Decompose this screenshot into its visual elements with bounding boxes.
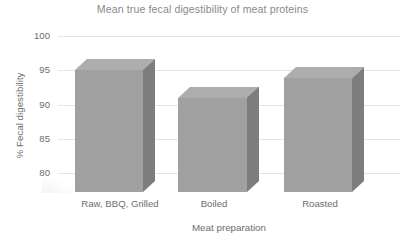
bar-front-face-0 [75, 70, 143, 192]
xtick-label-boiled: Boiled [168, 198, 260, 209]
bar-side-face-0 [143, 59, 155, 192]
x-axis-title: Meat preparation [58, 222, 400, 233]
plot-area: 100 95 90 85 80 Raw, BBQ, Grilled Boiled… [0, 0, 405, 243]
bar-side-face-1 [247, 87, 259, 192]
bar-top-face-1 [178, 87, 259, 98]
xtick-label-roasted: Roasted [274, 198, 366, 209]
xtick-label-raw-bbq-grilled: Raw, BBQ, Grilled [55, 198, 185, 209]
bar-front-face-2 [284, 78, 352, 192]
gridline-100 [58, 36, 400, 37]
bar-side-face-2 [352, 67, 364, 192]
bar-top-face-2 [284, 67, 364, 78]
y-axis-title: % Fecal digestibility [14, 41, 25, 191]
bar-top-face-0 [75, 59, 155, 70]
bar-chart: Mean true fecal digestibility of meat pr… [0, 0, 405, 243]
ytick-label-100: 100 [10, 30, 50, 41]
bar-front-face-1 [178, 98, 247, 192]
